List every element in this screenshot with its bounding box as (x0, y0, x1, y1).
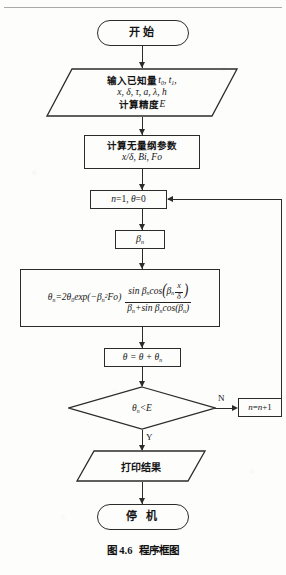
figure-caption-number: 图 4.6 (107, 545, 133, 556)
node-print-label: 打印结果 (121, 462, 161, 473)
node-decision: θn<E (68, 386, 216, 430)
figure-page: 开始 输入已知量t0, t1, x, δ, τ, a, λ, h 计算精度E 计… (0, 0, 286, 575)
node-stop: 停 机 (97, 504, 189, 530)
node-accumulate-label: θ = θ + θn (123, 352, 162, 364)
node-formula-fraction: sin βncos(βnxδ) βn+sin βncos(βn) (125, 282, 191, 313)
node-input-text: 输入已知量t0, t1, x, δ, τ, a, λ, h 计算精度E (46, 75, 238, 111)
node-input-line3-prefix: 计算精度 (119, 99, 159, 111)
node-formula-numerator: sin βncos(βnxδ) (126, 282, 190, 302)
node-beta-label: βn (136, 233, 144, 246)
node-start-label: 开始 (129, 26, 157, 40)
node-start: 开始 (97, 20, 189, 46)
figure-caption: 图 4.6程序框图 (0, 542, 286, 557)
node-formula-denominator: βn+sin βncos(βn) (125, 302, 191, 313)
node-increment-label: n=n+1 (248, 402, 272, 413)
node-dimensionless: 计算无量纲参数 x/δ, Bi, Fo (84, 135, 200, 169)
page-top-rule (4, 7, 282, 8)
node-input: 输入已知量t0, t1, x, δ, τ, a, λ, h 计算精度E (46, 68, 238, 117)
node-dimensionless-line1: 计算无量纲参数 (107, 140, 177, 152)
loop-line-top (168, 199, 282, 200)
node-beta: βn (115, 230, 165, 249)
loop-line-vertical (281, 199, 282, 399)
node-formula-expression: θn=2θ0exp(−βn2Fo) sin βncos(βnxδ) βn+sin… (48, 282, 192, 313)
node-print: 打印结果 (76, 450, 206, 482)
node-accumulate: θ = θ + θn (104, 348, 181, 367)
edge-label-yes: Y (146, 432, 153, 442)
node-input-line3-var: E (160, 99, 166, 111)
arrowhead-loop-into-init (167, 196, 173, 202)
node-init-label: n=1, θ=0 (111, 194, 145, 206)
node-input-line1-prefix: 输入已知量 (107, 75, 157, 87)
node-formula: θn=2θ0exp(−βn2Fo) sin βncos(βnxδ) βn+sin… (20, 269, 220, 327)
node-dimensionless-line2: x/δ, Bi, Fo (122, 152, 162, 164)
node-stop-label: 停 机 (126, 510, 161, 524)
node-increment: n=n+1 (238, 398, 282, 417)
node-input-line2: x, δ, τ, a, λ, h (117, 87, 166, 99)
node-init: n=1, θ=0 (90, 190, 167, 209)
edge-label-no: N (218, 393, 225, 403)
figure-caption-title: 程序框图 (139, 544, 179, 556)
node-decision-label: θn<E (132, 403, 152, 414)
node-formula-lhs: θn=2θ0exp(−βn2Fo) (48, 292, 121, 304)
